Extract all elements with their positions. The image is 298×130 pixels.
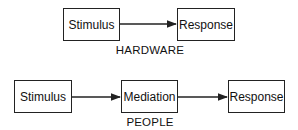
node-label: Stimulus <box>20 90 66 104</box>
hardware-caption: HARDWARE <box>100 44 200 56</box>
node-label: Response <box>229 90 283 104</box>
node-label: Response <box>179 18 233 32</box>
hardware-response-box: Response <box>177 8 235 41</box>
people-mediation-box: Mediation <box>121 80 178 113</box>
people-response-box: Response <box>228 80 285 113</box>
people-caption: PEOPLE <box>100 116 200 128</box>
people-stimulus-box: Stimulus <box>14 80 72 113</box>
node-label: Mediation <box>123 90 175 104</box>
hardware-stimulus-box: Stimulus <box>63 8 120 41</box>
node-label: Stimulus <box>68 18 114 32</box>
